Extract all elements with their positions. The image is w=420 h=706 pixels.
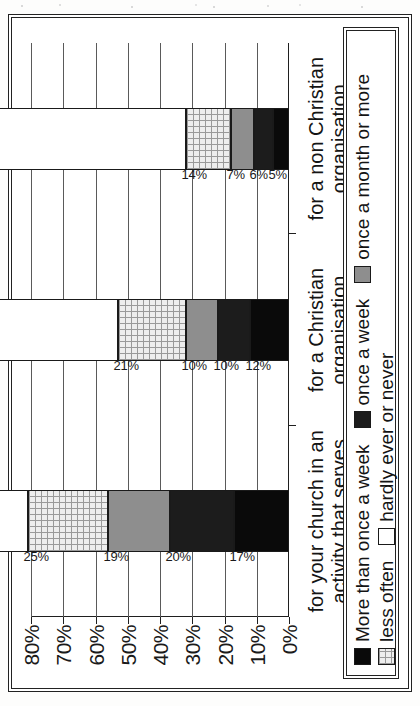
category-label-line: for your church in an bbox=[305, 426, 328, 617]
legend-item[interactable]: More than once a week bbox=[353, 444, 372, 665]
bar-segment[interactable] bbox=[108, 490, 169, 552]
y-tickmark-20 bbox=[225, 617, 226, 624]
stacked-bar[interactable]: 5%6%7%14%68% bbox=[31, 108, 289, 170]
y-axis-tick-60: 60% bbox=[85, 625, 106, 671]
bar-group-1: 17%20%19%25%19% bbox=[31, 426, 289, 617]
y-axis-tick-80: 80% bbox=[21, 625, 42, 671]
bar-segment[interactable] bbox=[186, 108, 231, 170]
category-tickmark bbox=[289, 425, 296, 426]
legend-frame-inner: More than once a weekonce a weekonce a m… bbox=[346, 30, 396, 676]
legend-item[interactable]: hardly ever or never bbox=[377, 353, 396, 545]
y-tickmark-40 bbox=[160, 617, 161, 624]
legend-item-label: More than once a week bbox=[353, 444, 372, 642]
bar-segment[interactable] bbox=[218, 299, 250, 361]
legend-item-label: hardly ever or never bbox=[377, 353, 396, 522]
legend-row-secondary: less oftenhardly ever or never bbox=[374, 37, 398, 665]
y-axis-tick-40: 40% bbox=[150, 625, 171, 671]
legend-item-label: less often bbox=[377, 561, 396, 642]
category-tickmark bbox=[289, 233, 296, 234]
legend: More than once a weekonce a weekonce a m… bbox=[343, 27, 399, 679]
scan-noise bbox=[0, 2, 420, 12]
legend-item[interactable]: once a month or more bbox=[353, 74, 372, 283]
bar-segment[interactable] bbox=[186, 299, 218, 361]
y-tickmark-80 bbox=[31, 617, 32, 624]
y-tickmark-60 bbox=[96, 617, 97, 624]
y-axis-tick-70: 70% bbox=[53, 625, 74, 671]
y-axis-tick-20: 20% bbox=[214, 625, 235, 671]
chart-area: 80%70%60%50%40%30%20%10%0% 17%20%19%25%1… bbox=[13, 19, 331, 687]
white-swatch-icon bbox=[378, 528, 395, 545]
legend-row-primary: More than once a weekonce a weekonce a m… bbox=[350, 37, 374, 665]
y-tickmark-70 bbox=[63, 617, 64, 624]
stacked-bar[interactable]: 17%20%19%25%19% bbox=[31, 490, 289, 552]
y-axis-tick-0: 0% bbox=[279, 625, 300, 671]
bar-segment[interactable] bbox=[0, 490, 28, 552]
legend-item-label: once a week bbox=[353, 299, 372, 406]
rotated-chart-stage: 80%70%60%50%40%30%20%10%0% 17%20%19%25%1… bbox=[13, 19, 407, 687]
legend-item-label: once a month or more bbox=[353, 74, 372, 260]
y-tickmark-50 bbox=[128, 617, 129, 624]
bar-group-2: 12%10%10%21%48% bbox=[31, 234, 289, 425]
bar-segment[interactable] bbox=[118, 299, 186, 361]
bar-segment[interactable] bbox=[234, 490, 289, 552]
bar-segment[interactable] bbox=[254, 108, 273, 170]
bar-segment[interactable] bbox=[273, 108, 289, 170]
category-label-line: for a Christian bbox=[305, 234, 328, 425]
bar-segment[interactable] bbox=[0, 108, 186, 170]
black-swatch-icon bbox=[354, 648, 371, 665]
legend-item[interactable]: once a week bbox=[353, 299, 372, 429]
y-axis-tick-30: 30% bbox=[182, 625, 203, 671]
stacked-bar[interactable]: 12%10%10%21%48% bbox=[31, 299, 289, 361]
bar-group-3: 5%6%7%14%68% bbox=[31, 43, 289, 234]
legend-item[interactable]: less often bbox=[377, 561, 396, 665]
y-axis-tick-labels: 80%70%60%50%40%30%20%10%0% bbox=[31, 625, 289, 681]
dark-swatch-icon bbox=[354, 411, 371, 428]
y-tickmark-30 bbox=[192, 617, 193, 624]
y-axis-tick-50: 50% bbox=[117, 625, 138, 671]
grey-swatch-icon bbox=[354, 266, 371, 283]
bar-segment[interactable] bbox=[0, 299, 118, 361]
y-tickmark-0 bbox=[289, 617, 290, 624]
bar-segment[interactable] bbox=[28, 490, 109, 552]
grid-swatch-icon bbox=[378, 648, 395, 665]
y-axis-tick-10: 10% bbox=[246, 625, 267, 671]
bar-segment[interactable] bbox=[250, 299, 289, 361]
bar-segment[interactable] bbox=[170, 490, 235, 552]
category-label-line: for a non Christian bbox=[305, 43, 328, 234]
scanned-page: 80%70%60%50%40%30%20%10%0% 17%20%19%25%1… bbox=[0, 0, 420, 706]
y-tickmark-10 bbox=[257, 617, 258, 624]
plot-area: 17%20%19%25%19%12%10%10%21%48%5%6%7%14%6… bbox=[31, 43, 289, 617]
bar-segment[interactable] bbox=[231, 108, 254, 170]
